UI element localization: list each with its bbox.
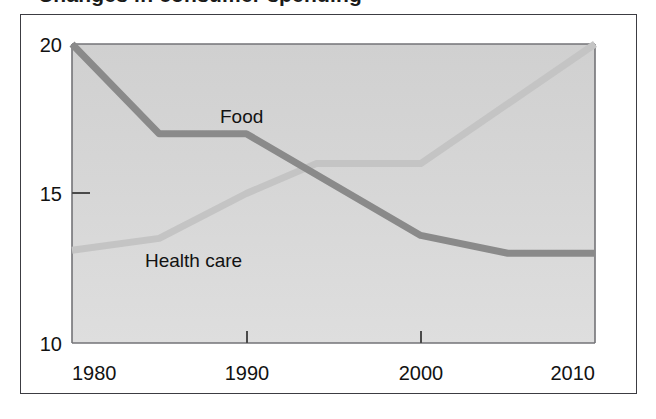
x-tick-label-1990: 1990	[225, 362, 270, 384]
plot-area-background	[72, 44, 595, 343]
chart-stage: 20 15 10 1980 1990 2000 2010 Food Health…	[0, 0, 656, 419]
series-annotation-food: Food	[220, 106, 263, 127]
series-annotation-health-care: Health care	[145, 250, 242, 271]
x-tick-label-1980: 1980	[72, 362, 117, 384]
x-tick-label-2010: 2010	[551, 362, 596, 384]
line-chart: 20 15 10 1980 1990 2000 2010 Food Health…	[0, 0, 656, 419]
y-tick-label-10: 10	[40, 333, 62, 355]
x-tick-label-2000: 2000	[399, 362, 444, 384]
y-tick-label-20: 20	[40, 34, 62, 56]
y-tick-label-15: 15	[40, 183, 62, 205]
